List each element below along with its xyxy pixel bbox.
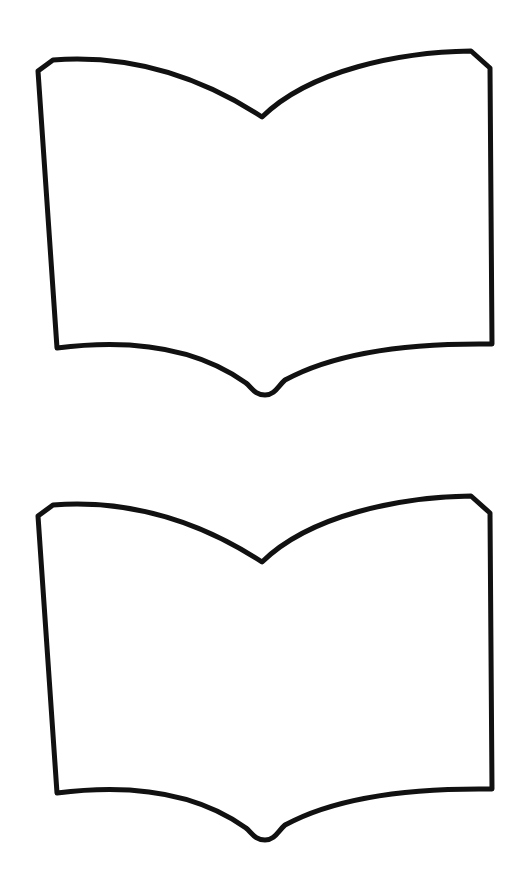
open-book-outline-top xyxy=(38,51,492,395)
drawing-canvas xyxy=(0,0,520,870)
open-book-outline-bottom xyxy=(38,496,492,840)
book-icon xyxy=(38,496,492,840)
book-icon xyxy=(38,51,492,395)
